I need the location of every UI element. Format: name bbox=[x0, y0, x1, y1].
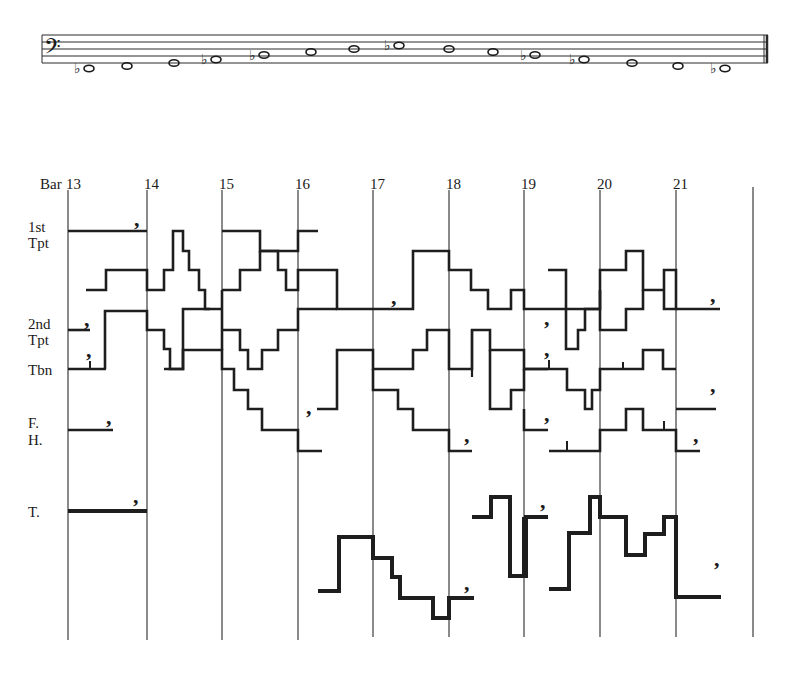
instrument-fh-line2: H. bbox=[28, 432, 43, 448]
breath-mark: , bbox=[391, 284, 397, 309]
contour-upper-b bbox=[222, 231, 318, 251]
contour-19-lower bbox=[549, 409, 700, 451]
instrument-1st-tpt-line2: Tpt bbox=[28, 235, 50, 251]
bar-label-13: 13 bbox=[66, 176, 81, 192]
breath-mark: , bbox=[540, 488, 546, 513]
bar-label-18: 18 bbox=[446, 176, 461, 192]
contour-t-b bbox=[318, 537, 474, 618]
contour-mid-a bbox=[105, 309, 222, 369]
contour-t-c bbox=[472, 497, 548, 576]
scale-staff bbox=[42, 35, 768, 63]
instrument-2nd-tpt-line1: 2nd bbox=[28, 316, 51, 332]
breath-mark: , bbox=[544, 401, 550, 426]
svg-text:♭: ♭ bbox=[569, 51, 576, 67]
svg-text:♭: ♭ bbox=[249, 47, 256, 63]
instrument-2nd-tpt-line2: Tpt bbox=[28, 332, 50, 348]
contour-upper-a bbox=[86, 231, 210, 309]
svg-text:♭: ♭ bbox=[74, 60, 81, 76]
bar-label-20: 20 bbox=[597, 176, 612, 192]
instrument-fh-line1: F. bbox=[28, 415, 39, 431]
bar-lines bbox=[68, 187, 753, 640]
contour-19-upper bbox=[548, 251, 676, 349]
instrument-labels: 1st Tpt 2nd Tpt Tbn F. H. T. bbox=[28, 219, 53, 520]
breath-mark: , bbox=[306, 394, 312, 419]
breath-mark: , bbox=[544, 336, 550, 361]
breath-mark: , bbox=[464, 570, 470, 595]
breath-mark: , bbox=[106, 404, 112, 429]
contour-19-lower-tick bbox=[567, 421, 664, 451]
svg-text:♭: ♭ bbox=[710, 60, 717, 76]
bar-label-21: 21 bbox=[673, 176, 688, 192]
timpani-contour bbox=[68, 497, 721, 618]
breath-mark: , bbox=[544, 305, 550, 330]
contour-19-mid-tick bbox=[549, 360, 623, 369]
breath-mark: , bbox=[693, 422, 699, 447]
instrument-tbn: Tbn bbox=[28, 362, 53, 378]
bar-label-17: 17 bbox=[370, 176, 386, 192]
bar-label-19: 19 bbox=[521, 176, 536, 192]
breath-mark: , bbox=[86, 337, 92, 362]
instrument-t: T. bbox=[28, 504, 40, 520]
scale-notes bbox=[84, 42, 730, 72]
bar-axis-label: Bar bbox=[40, 176, 62, 192]
contour-t-d bbox=[524, 497, 721, 597]
bar-label-15: 15 bbox=[219, 176, 234, 192]
voice-contours bbox=[68, 231, 720, 451]
contour-tbn-c bbox=[373, 369, 472, 451]
contour-19-hline bbox=[548, 290, 643, 330]
breath-mark: , bbox=[714, 546, 720, 571]
svg-text:♭: ♭ bbox=[201, 51, 208, 67]
svg-text:♭: ♭ bbox=[520, 47, 527, 63]
score-graphic: 𝄢 ♭ ♭ ♭ ♭ ♭ ♭ ♭ bbox=[0, 0, 805, 673]
contour-mid-c bbox=[317, 330, 548, 409]
bar-label-14: 14 bbox=[144, 176, 160, 192]
breath-mark: , bbox=[710, 372, 716, 397]
svg-text:♭: ♭ bbox=[384, 37, 391, 53]
breath-mark: , bbox=[134, 206, 140, 231]
contour-mid-b bbox=[222, 309, 337, 369]
contour-mid-e bbox=[490, 350, 524, 409]
bar-number-labels: Bar 13 14 15 16 17 18 19 20 21 bbox=[40, 176, 688, 192]
breath-mark: , bbox=[464, 422, 470, 447]
svg-text:𝄢: 𝄢 bbox=[44, 34, 61, 64]
contour-upper-c bbox=[222, 251, 548, 350]
breath-mark: , bbox=[84, 306, 90, 331]
bar-label-16: 16 bbox=[295, 176, 311, 192]
breath-mark: , bbox=[133, 483, 139, 508]
instrument-1st-tpt-line1: 1st bbox=[28, 219, 46, 235]
breath-mark: , bbox=[710, 282, 716, 307]
bass-clef-icon: 𝄢 bbox=[44, 34, 61, 64]
